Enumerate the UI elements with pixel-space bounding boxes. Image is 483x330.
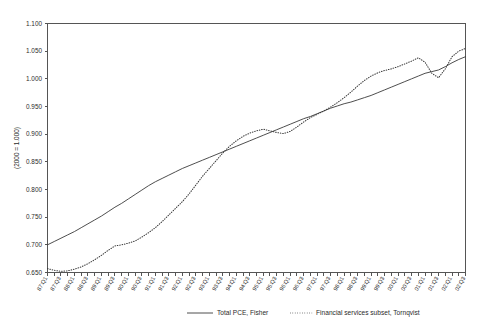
y-axis-tick-labels: 0.6500.7000.7500.8000.8500.9000.9501.000… <box>26 20 42 276</box>
x-tick-label: 90:Q1 <box>116 276 129 292</box>
series-line-2 <box>48 48 466 271</box>
x-tick-label: 91:Q3 <box>157 276 170 292</box>
series-line-1 <box>48 57 466 245</box>
x-tick-label: 00:Q3 <box>400 276 413 292</box>
y-tick-label: 0.900 <box>26 130 42 137</box>
y-tick-label: 1.050 <box>26 47 42 54</box>
x-tick-label: 88:Q3 <box>76 276 89 292</box>
x-tick-label: 91:Q1 <box>143 276 156 292</box>
x-tick-label: 92:Q3 <box>184 276 197 292</box>
x-tick-label: 02:Q3 <box>454 276 467 292</box>
x-tick-label: 89:Q3 <box>103 276 116 292</box>
y-tick-label: 0.850 <box>26 158 42 165</box>
x-tick-label: 87:Q1 <box>36 276 49 292</box>
line-chart: 0.6500.7000.7500.8000.8500.9000.9501.000… <box>0 0 483 330</box>
legend-label-1: Total PCE, Fisher <box>217 309 269 316</box>
y-tick-label: 0.650 <box>26 269 42 276</box>
x-tick-label: 92:Q1 <box>170 276 183 292</box>
x-tick-label: 94:Q3 <box>238 276 251 292</box>
y-axis-title-text: (2000 = 1.000) <box>13 127 21 169</box>
x-tick-label: 93:Q3 <box>211 276 224 292</box>
legend-label-2: Financial services subset, Tornqvist <box>316 309 420 317</box>
x-tick-label: 94:Q1 <box>224 276 237 292</box>
y-tick-label: 0.750 <box>26 213 42 220</box>
x-tick-label: 95:Q3 <box>265 276 278 292</box>
x-axis-tick-labels: 87:Q187:Q388:Q188:Q389:Q189:Q390:Q190:Q3… <box>36 276 467 292</box>
chart-legend: Total PCE, FisherFinancial services subs… <box>187 309 420 317</box>
x-tick-label: 00:Q1 <box>386 276 399 292</box>
x-tick-label: 93:Q1 <box>197 276 210 292</box>
chart-container: 0.6500.7000.7500.8000.8500.9000.9501.000… <box>0 0 483 330</box>
x-tick-label: 96:Q1 <box>278 276 291 292</box>
x-tick-label: 98:Q1 <box>332 276 345 292</box>
x-tick-label: 97:Q1 <box>305 276 318 292</box>
y-tick-label: 0.700 <box>26 241 42 248</box>
x-tick-label: 90:Q3 <box>130 276 143 292</box>
data-series-group <box>48 48 466 271</box>
x-tick-label: 88:Q1 <box>63 276 76 292</box>
x-tick-label: 99:Q3 <box>373 276 386 292</box>
y-tick-label: 1.100 <box>26 20 42 27</box>
x-tick-label: 97:Q3 <box>319 276 332 292</box>
x-tick-label: 89:Q1 <box>89 276 102 292</box>
x-tick-label: 98:Q3 <box>346 276 359 292</box>
y-tick-label: 1.000 <box>26 75 42 82</box>
plot-area-frame <box>48 24 466 273</box>
x-tick-label: 87:Q3 <box>49 276 62 292</box>
y-axis-title: (2000 = 1.000) <box>13 127 21 169</box>
x-tick-label: 02:Q1 <box>440 276 453 292</box>
x-tick-label: 01:Q3 <box>427 276 440 292</box>
plot-border <box>48 24 466 273</box>
x-tick-label: 01:Q1 <box>413 276 426 292</box>
x-tick-label: 96:Q3 <box>292 276 305 292</box>
y-tick-label: 0.800 <box>26 186 42 193</box>
x-tick-label: 99:Q1 <box>359 276 372 292</box>
y-tick-label: 0.950 <box>26 103 42 110</box>
x-tick-label: 95:Q1 <box>251 276 264 292</box>
